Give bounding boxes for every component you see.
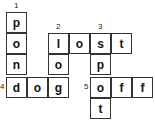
crossword-cell[interactable]: p: [90, 54, 111, 75]
crossword-puzzle: { "puzzle": { "cells": [ {"row": 0, "col…: [0, 0, 155, 121]
crossword-cell[interactable]: n: [6, 54, 27, 75]
crossword-cell[interactable]: f: [111, 77, 132, 98]
crossword-cell[interactable]: t: [111, 33, 132, 54]
clue-number-label: 1: [14, 1, 18, 10]
crossword-cell[interactable]: t: [90, 98, 111, 119]
crossword-cell[interactable]: o: [27, 77, 48, 98]
crossword-cell[interactable]: f: [132, 77, 153, 98]
crossword-cell[interactable]: p: [6, 12, 27, 33]
crossword-cell[interactable]: o: [48, 54, 69, 75]
crossword-cell[interactable]: g: [48, 77, 69, 98]
crossword-cell[interactable]: o: [6, 33, 27, 54]
clue-number-label: 5: [84, 82, 88, 91]
crossword-cell[interactable]: o: [90, 77, 111, 98]
crossword-cell[interactable]: s: [90, 33, 111, 54]
clue-number-label: 2: [56, 22, 60, 31]
crossword-cell[interactable]: l: [48, 33, 69, 54]
crossword-cell[interactable]: o: [69, 33, 90, 54]
crossword-cell[interactable]: d: [6, 77, 27, 98]
clue-number-label: 3: [98, 22, 102, 31]
clue-number-label: 4: [0, 82, 4, 91]
